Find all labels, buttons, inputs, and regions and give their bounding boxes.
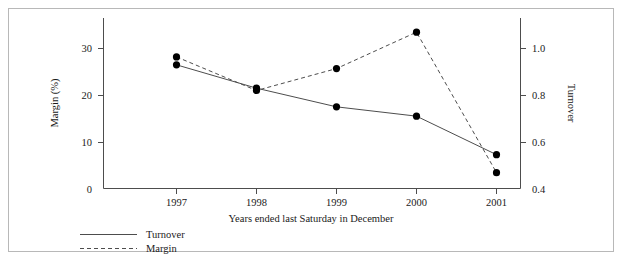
legend: Turnover Margin — [80, 229, 185, 254]
left-axis-tick-label-20: 20 — [82, 90, 93, 101]
legend-label-turnover: Turnover — [146, 229, 185, 240]
data-point-margin-1998 — [253, 87, 260, 94]
x-axis-tick-label-1997: 1997 — [166, 197, 187, 208]
right-axis-tick-label-0-6: 0.6 — [532, 137, 545, 148]
x-axis-tick-label-1998: 1998 — [246, 197, 267, 208]
left-axis-tick-label-10: 10 — [82, 137, 93, 148]
data-point-turnover-2001 — [493, 151, 500, 158]
data-point-turnover-1999 — [333, 103, 340, 110]
right-axis-tick-label-0-8: 0.8 — [532, 90, 545, 101]
x-axis-title: Years ended last Saturday in December — [229, 213, 394, 224]
left-axis-tick-label-30: 30 — [82, 43, 93, 54]
data-point-margin-2000 — [413, 29, 420, 36]
dual-axis-line-chart: 30 20 10 0 Margin (%) 1.0 0.8 0.6 0.4 Tu… — [0, 0, 623, 262]
data-point-margin-1997 — [173, 53, 180, 60]
left-axis-title: Margin (%) — [49, 78, 61, 128]
data-point-margin-1999 — [333, 65, 340, 72]
x-axis-tick-label-2000: 2000 — [406, 197, 427, 208]
data-point-turnover-1997 — [173, 61, 180, 68]
right-axis-title: Turnover — [566, 84, 577, 123]
x-axis: 1997 1998 1999 2000 2001 Years ended las… — [104, 189, 521, 225]
right-axis-tick-label-1-0: 1.0 — [532, 43, 545, 54]
left-axis-tick-label-0: 0 — [87, 184, 92, 195]
left-axis: 30 20 10 0 Margin (%) — [49, 18, 104, 195]
series-layer — [173, 29, 500, 177]
chart-screenshot: 30 20 10 0 Margin (%) 1.0 0.8 0.6 0.4 Tu… — [0, 0, 623, 262]
right-axis: 1.0 0.8 0.6 0.4 Turnover — [521, 18, 578, 195]
data-point-turnover-2000 — [413, 113, 420, 120]
data-point-margin-2001 — [493, 169, 500, 176]
x-axis-tick-label-2001: 2001 — [486, 197, 507, 208]
x-axis-tick-label-1999: 1999 — [326, 197, 347, 208]
legend-label-margin: Margin — [146, 243, 177, 254]
series-line-margin — [177, 32, 497, 172]
right-axis-tick-label-0-4: 0.4 — [532, 184, 546, 195]
